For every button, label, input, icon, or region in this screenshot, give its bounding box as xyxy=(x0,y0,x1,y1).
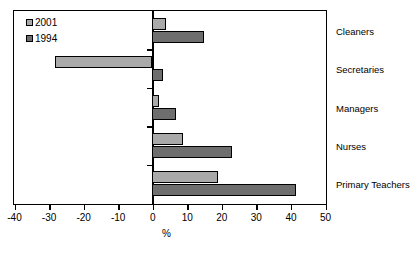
category-separator-tick xyxy=(147,126,152,128)
x-axis-tick xyxy=(84,205,86,210)
bar-secretaries-2001 xyxy=(55,56,152,68)
x-axis-tick xyxy=(15,205,17,210)
bar-chart: -40-30-20-1001020304050 % CleanersSecret… xyxy=(0,0,420,255)
legend-swatch-icon xyxy=(26,19,33,26)
x-axis-tick xyxy=(118,205,120,210)
category-separator-tick xyxy=(147,165,152,167)
bar-managers-2001 xyxy=(152,95,159,107)
bar-nurses-2001 xyxy=(152,133,183,145)
category-separator-tick xyxy=(147,88,152,90)
x-axis-tick xyxy=(187,205,189,210)
plot-area xyxy=(14,11,326,204)
x-axis-tick xyxy=(326,205,328,210)
chart-legend: 20011994 xyxy=(26,17,57,49)
x-axis-tick xyxy=(291,205,293,210)
x-axis-title: % xyxy=(137,228,197,239)
x-axis-tick xyxy=(49,205,51,210)
category-label-managers: Managers xyxy=(336,102,378,113)
x-axis-tick xyxy=(222,205,224,210)
category-label-secretaries: Secretaries xyxy=(336,64,384,75)
legend-swatch-icon xyxy=(26,35,33,42)
x-axis-tick xyxy=(256,205,258,210)
category-label-nurses: Nurses xyxy=(336,140,366,151)
x-axis-tick-label: 50 xyxy=(306,212,346,223)
legend-item-2001: 2001 xyxy=(26,17,57,28)
bar-nurses-1994 xyxy=(152,146,231,158)
category-separator-tick xyxy=(147,49,152,51)
category-label-cleaners: Cleaners xyxy=(336,25,374,36)
bar-primary-teachers-2001 xyxy=(152,171,218,183)
plot-frame xyxy=(13,10,327,205)
bar-cleaners-1994 xyxy=(152,31,204,43)
legend-label: 2001 xyxy=(35,18,57,28)
x-axis-tick xyxy=(153,205,155,210)
category-label-primary-teachers: Primary Teachers xyxy=(336,179,410,190)
bar-managers-1994 xyxy=(152,108,176,120)
legend-label: 1994 xyxy=(35,34,57,44)
bar-secretaries-1994 xyxy=(152,69,162,81)
legend-item-1994: 1994 xyxy=(26,33,57,44)
bar-primary-teachers-1994 xyxy=(152,184,295,196)
bar-cleaners-2001 xyxy=(152,18,166,30)
